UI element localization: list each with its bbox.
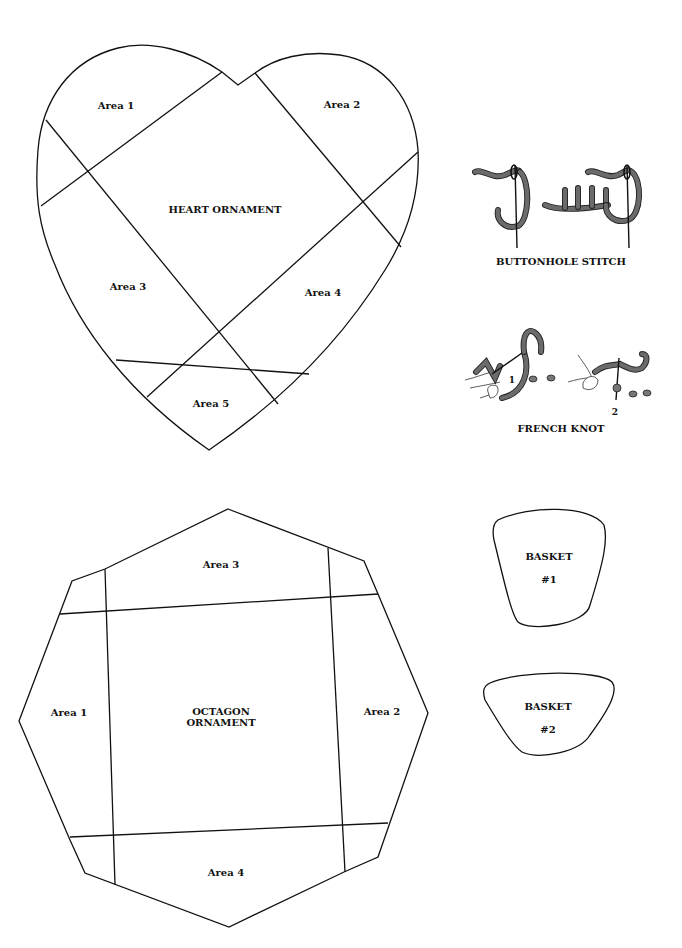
french-knot-step-2: 2 [568,354,651,417]
heart-cut-line-1 [41,72,222,206]
heart-area-3-label: Area 3 [109,281,146,292]
heart-cut-line-4 [147,152,418,397]
french-knot-caption: FRENCH KNOT [517,423,605,434]
heart-title: HEART ORNAMENT [168,204,282,215]
heart-area-4-label: Area 4 [304,287,341,298]
heart-area-1-label: Area 1 [97,100,134,111]
octagon-area-1-label: Area 1 [50,707,87,718]
pattern-sheet: Area 1 Area 2 HEART ORNAMENT Area 3 Area… [0,0,682,948]
heart-area-2-label: Area 2 [323,99,360,110]
basket-1-number: #1 [541,574,556,585]
basket-2-label: BASKET [524,701,572,712]
octagon-ornament: Area 3 Area 1 OCTAGON ORNAMENT Area 2 Ar… [19,509,428,927]
heart-area-5-label: Area 5 [192,398,229,409]
basket-2-number: #2 [540,724,555,735]
octagon-title-line-2: ORNAMENT [186,717,256,728]
basket-2-pattern: BASKET #2 [484,673,615,755]
heart-cut-line-5 [116,360,309,374]
basket-1-outline [493,509,605,626]
buttonhole-step-left [475,165,527,248]
knot-icon [529,376,537,382]
octagon-area-3-label: Area 3 [202,559,239,570]
heart-cut-line-2 [46,120,278,404]
octagon-area-2-label: Area 2 [363,706,400,717]
octagon-cut-line-left [105,569,115,885]
basket-1-pattern: BASKET #1 [493,509,605,626]
basket-1-label: BASKET [525,551,573,562]
french-knot-step-1-number: 1 [509,375,515,385]
buttonhole-stitch-caption: BUTTONHOLE STITCH [496,256,626,267]
french-knot-step-1: 1 [465,331,555,398]
heart-outline [37,45,418,450]
octagon-title-line-1: OCTAGON [192,706,250,717]
buttonhole-stitch-illustration: BUTTONHOLE STITCH [475,165,639,267]
knot-icon [613,384,621,392]
basket-2-outline [484,673,615,755]
octagon-cut-line-bottom [70,823,388,837]
finger-icon [488,385,498,398]
french-knot-illustration: 1 2 FRENCH KNOT [465,331,651,434]
french-knot-step-2-number: 2 [612,407,618,417]
knot-icon [643,390,651,396]
octagon-area-4-label: Area 4 [207,867,244,878]
buttonhole-step-right [545,165,639,248]
knot-icon [629,391,637,397]
knot-icon [547,375,555,381]
heart-ornament: Area 1 Area 2 HEART ORNAMENT Area 3 Area… [37,45,418,450]
